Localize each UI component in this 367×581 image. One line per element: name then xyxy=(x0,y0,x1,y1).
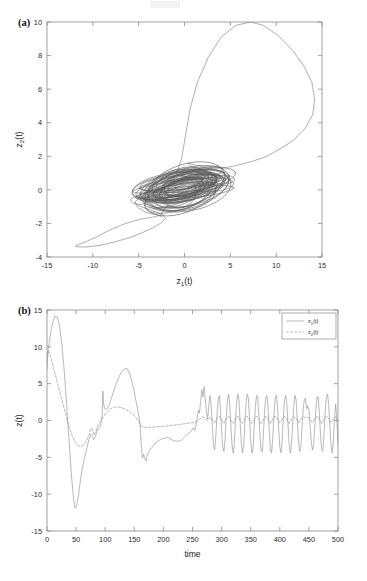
x-tick-label: -5 xyxy=(135,261,142,270)
panel-b-plot-area: 050100150200250300350400450500-15-10-505… xyxy=(14,305,344,559)
x-tick-label: 5 xyxy=(228,261,232,270)
panel-a-y-axis-label: z2(t) xyxy=(14,131,25,147)
panel-b-x-axis-label: time xyxy=(184,549,200,559)
trajectory-upper-loop xyxy=(170,22,315,192)
x-tick-label: 0 xyxy=(45,535,49,544)
y-tick-label: -2 xyxy=(35,219,42,228)
panel-a-tag: (a) xyxy=(18,17,31,29)
x-tick-label: 150 xyxy=(128,535,140,544)
panel-b-svg: 050100150200250300350400450500-15-10-505… xyxy=(0,288,367,581)
panel-b-time-series: 050100150200250300350400450500-15-10-505… xyxy=(0,288,367,581)
y-tick-label: 10 xyxy=(34,343,42,352)
y-tick-label: 10 xyxy=(34,18,42,27)
panel-b-y-axis-label: z(t) xyxy=(14,414,24,427)
x-tick-label: -10 xyxy=(87,261,98,270)
panel-a-x-axis-label: z1(t) xyxy=(177,276,193,287)
panel-b-traces xyxy=(47,316,338,508)
y-tick-label: -4 xyxy=(35,253,42,262)
y-tick-label: 0 xyxy=(38,186,42,195)
x-tick-label: 400 xyxy=(274,535,286,544)
y-tick-label: 15 xyxy=(34,306,42,315)
x-tick-label: -15 xyxy=(42,261,53,270)
panel-a-frame xyxy=(47,22,322,257)
panel-a-phase-portrait: -15-10-5051015-4-20246810z1(t)z2(t)(a) xyxy=(0,0,367,290)
x-tick-label: 10 xyxy=(272,261,280,270)
y-tick-label: 5 xyxy=(38,379,42,388)
panel-a-traces xyxy=(75,22,314,247)
series-z1 xyxy=(47,316,338,508)
figure-container: -15-10-5051015-4-20246810z1(t)z2(t)(a) 0… xyxy=(0,0,367,581)
x-tick-label: 15 xyxy=(318,261,326,270)
panel-b-x-axis: 050100150200250300350400450500 xyxy=(45,310,344,544)
x-tick-label: 450 xyxy=(303,535,315,544)
y-tick-label: 4 xyxy=(38,118,42,127)
y-tick-label: 6 xyxy=(38,85,42,94)
panel-b-tag: (b) xyxy=(18,305,31,317)
x-tick-label: 100 xyxy=(99,535,111,544)
panel-a-plot-area: -15-10-5051015-4-20246810z1(t)z2(t)(a) xyxy=(14,17,326,287)
panel-a-svg: -15-10-5051015-4-20246810z1(t)z2(t)(a) xyxy=(0,0,367,290)
panel-b-frame xyxy=(47,310,338,531)
panel-a-y-axis: -4-20246810 xyxy=(34,18,322,262)
x-tick-label: 0 xyxy=(182,261,186,270)
trajectory-lower-loop xyxy=(75,196,171,247)
x-tick-label: 50 xyxy=(72,535,80,544)
x-tick-label: 250 xyxy=(186,535,198,544)
attractor-core xyxy=(126,150,243,228)
y-tick-label: -5 xyxy=(35,453,42,462)
y-tick-label: -15 xyxy=(31,527,42,536)
x-tick-label: 200 xyxy=(157,535,169,544)
y-tick-label: -10 xyxy=(31,490,42,499)
y-tick-label: 0 xyxy=(38,416,42,425)
x-tick-label: 500 xyxy=(332,535,344,544)
x-tick-label: 350 xyxy=(245,535,257,544)
x-tick-label: 300 xyxy=(215,535,227,544)
y-tick-label: 8 xyxy=(38,51,42,60)
panel-b-legend[interactable]: z1(t)z2(t) xyxy=(282,313,336,339)
y-tick-label: 2 xyxy=(38,152,42,161)
